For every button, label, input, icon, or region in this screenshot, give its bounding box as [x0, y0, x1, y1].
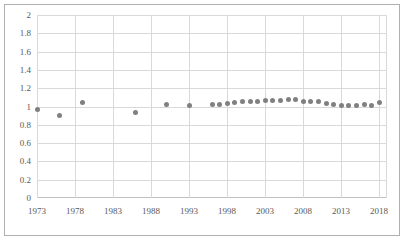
x-axis-tick-label: 2008 [283, 207, 323, 216]
data-point [57, 113, 62, 118]
gridline-horizontal [37, 161, 387, 162]
x-axis-tick-label: 1988 [131, 207, 171, 216]
x-axis-tick-label: 2003 [245, 207, 285, 216]
plot-border-top [37, 15, 387, 16]
data-point [270, 98, 275, 103]
gridline-horizontal [37, 143, 387, 144]
data-point [301, 99, 306, 104]
x-axis-tick-label: 1998 [207, 207, 247, 216]
data-point [210, 102, 215, 107]
gridline-vertical [75, 15, 76, 198]
data-point [286, 97, 291, 102]
gridline-vertical [113, 15, 114, 198]
data-point [255, 99, 260, 104]
data-point [316, 99, 321, 104]
y-axis-tick-label: 1.2 [5, 84, 31, 93]
plot-border-right [386, 15, 387, 198]
gridline-vertical [151, 15, 152, 198]
gridline-horizontal [37, 33, 387, 34]
data-point [164, 102, 169, 107]
y-axis-tick-label: 0.2 [5, 176, 31, 185]
y-axis-tick-label: 1.6 [5, 48, 31, 57]
data-point [232, 100, 237, 105]
y-axis-tick-label: 0.6 [5, 139, 31, 148]
data-point [187, 103, 192, 108]
x-axis-tick-label: 1973 [17, 207, 57, 216]
gridline-vertical [227, 15, 228, 198]
x-axis-tick-label: 1978 [55, 207, 95, 216]
data-point [362, 102, 367, 107]
gridline-horizontal [37, 70, 387, 71]
x-axis-tick-label: 2018 [359, 207, 399, 216]
plot-area [37, 15, 387, 198]
data-point [324, 101, 329, 106]
data-point [80, 100, 85, 105]
data-point [240, 99, 245, 104]
gridline-horizontal [37, 180, 387, 181]
gridline-horizontal [37, 88, 387, 89]
data-point [263, 98, 268, 103]
y-axis-tick-label: 0.4 [5, 157, 31, 166]
gridline-horizontal [37, 107, 387, 108]
data-point [225, 101, 230, 106]
data-point [35, 107, 40, 112]
data-point [133, 110, 138, 115]
data-point [293, 97, 298, 102]
chart-frame: 00.20.40.60.811.21.41.61.821973197819831… [4, 4, 400, 236]
gridline-vertical [265, 15, 266, 198]
gridline-vertical [379, 15, 380, 198]
gridline-horizontal [37, 125, 387, 126]
x-axis-tick-label: 1983 [93, 207, 133, 216]
data-point [278, 98, 283, 103]
gridline-vertical [303, 15, 304, 198]
y-axis-tick-label: 0 [5, 194, 31, 203]
data-point [248, 99, 253, 104]
data-point [308, 99, 313, 104]
x-axis-tick-label: 2013 [321, 207, 361, 216]
y-axis-tick-label: 1.4 [5, 66, 31, 75]
y-axis-tick-label: 1 [5, 103, 31, 112]
gridline-horizontal [37, 52, 387, 53]
data-point [377, 100, 382, 105]
y-axis-tick-label: 2 [5, 11, 31, 20]
y-axis-tick-label: 0.8 [5, 121, 31, 130]
data-point [339, 103, 344, 108]
x-axis-tick-label: 1993 [169, 207, 209, 216]
y-axis-tick-label: 1.8 [5, 29, 31, 38]
x-axis-line [37, 197, 387, 198]
